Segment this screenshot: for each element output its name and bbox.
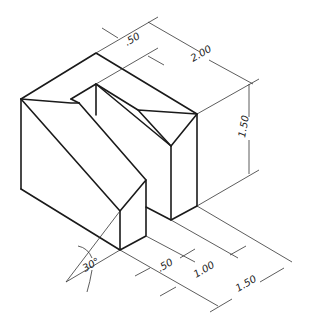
- isometric-drawing: .50 2.00 1.50 .50 1.00 1.50 30°: [0, 0, 309, 325]
- object-lines: [21, 53, 197, 250]
- dim-label: 1.00: [192, 259, 217, 280]
- drawing-canvas: .50 2.00 1.50 .50 1.00 1.50 30°: [0, 0, 309, 325]
- dim-depth: 2.00: [148, 22, 259, 114]
- dim-label: 30°: [81, 255, 102, 273]
- top-outline: [21, 53, 197, 114]
- notch-slope: [96, 84, 171, 146]
- dim-label: 1.50: [236, 115, 251, 139]
- front-block: [120, 180, 146, 250]
- dim-label: .50: [156, 256, 175, 273]
- dim-label: 1.50: [234, 273, 259, 294]
- slope-edge-inner: [79, 103, 146, 180]
- dim-height: 1.50: [197, 84, 259, 206]
- bottom-left-edge: [21, 189, 120, 250]
- dim-angle: 30°: [66, 211, 120, 292]
- dim-label: .50: [123, 30, 142, 47]
- slope-edge-outer: [21, 99, 120, 211]
- notch-back: [71, 84, 96, 115]
- right-top-triangle: [138, 110, 197, 146]
- left-top-face-edge: [21, 99, 79, 103]
- notch-top: [96, 84, 138, 110]
